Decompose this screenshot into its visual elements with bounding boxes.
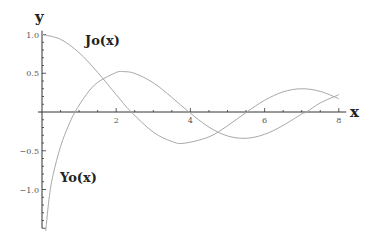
- x-tick-label: 2: [114, 116, 119, 125]
- axes: [38, 31, 346, 229]
- bessel-chart: 24681.00.5−0.5−1.0 x y Jo(x) Yo(x): [0, 0, 379, 238]
- x-tick-label: 6: [262, 116, 267, 125]
- y-tick-label: −1.0: [20, 186, 39, 195]
- x-tick-label: 4: [188, 116, 193, 125]
- y0-curve-label: Yo(x): [59, 170, 97, 185]
- y-tick-label: −0.5: [20, 147, 39, 156]
- x-tick-label: 8: [336, 116, 341, 125]
- y-tick-label: 0.5: [26, 69, 39, 78]
- y0-curve: [46, 71, 339, 231]
- y-tick-label: 1.0: [26, 31, 39, 40]
- y-axis-title: y: [34, 8, 45, 26]
- j0-curve: [42, 35, 339, 144]
- x-axis-title: x: [350, 103, 360, 121]
- curves: [42, 35, 339, 231]
- ticks: [42, 35, 339, 229]
- j0-curve-label: Jo(x): [84, 33, 120, 48]
